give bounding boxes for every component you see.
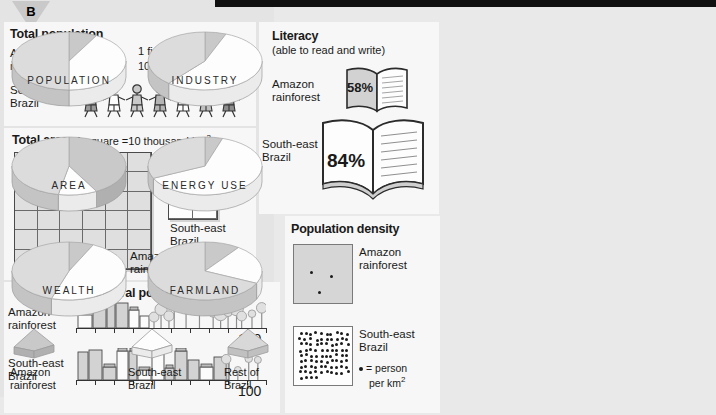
pie-label: ENERGY USE — [146, 180, 264, 191]
population-density-title: Population density — [291, 222, 399, 236]
density-dot — [347, 370, 350, 373]
density-dot — [329, 333, 332, 336]
density-dot — [309, 371, 312, 374]
density-dot — [340, 332, 343, 335]
density-dot — [321, 355, 324, 358]
density-box-amazon — [293, 244, 353, 304]
density-dot — [340, 360, 343, 363]
area-square — [38, 211, 61, 230]
legend-wedge-icon — [10, 325, 58, 359]
density-dot — [315, 376, 318, 379]
density-dot — [335, 359, 338, 362]
density-dot — [330, 371, 333, 374]
literacy-row-1-label: South-east Brazil — [262, 138, 318, 163]
density-dot — [335, 372, 338, 375]
density-dot — [320, 332, 323, 335]
density-dot — [335, 343, 338, 346]
density-dot — [309, 348, 312, 351]
density-dot — [326, 361, 329, 364]
density-dot — [326, 370, 329, 373]
density-dot — [335, 366, 338, 369]
legend-label: Amazonrainforest — [10, 366, 95, 391]
pie-label: FARMLAND — [146, 285, 264, 296]
pie-chart-area[interactable]: AREA — [10, 135, 128, 213]
density-dot — [340, 372, 343, 375]
density-dot — [330, 366, 333, 369]
density-dot — [341, 349, 344, 352]
literacy-value-southeast: 84% — [327, 150, 365, 172]
density-dot — [345, 349, 348, 352]
density-dot — [325, 355, 328, 358]
pie-chart-wealth[interactable]: WEALTH — [10, 240, 128, 318]
pie-chart-industry[interactable]: INDUSTRY — [146, 30, 264, 108]
density-dot — [310, 355, 313, 358]
density-dot — [335, 353, 338, 356]
density-dot — [309, 333, 312, 336]
density-key: = person per km2 — [359, 362, 407, 389]
density-dot — [345, 366, 348, 369]
area-square — [83, 211, 106, 230]
density-dot — [316, 343, 319, 346]
pie-label: INDUSTRY — [146, 75, 264, 86]
density-dot — [318, 291, 321, 294]
density-dot — [336, 338, 339, 341]
literacy-title: Literacy — [272, 29, 318, 43]
density-dot — [330, 275, 333, 278]
axis-tick — [114, 328, 115, 333]
density-dot — [315, 360, 318, 363]
density-dot — [341, 354, 344, 357]
area-square — [128, 211, 151, 230]
density-dot — [341, 337, 344, 340]
top-black-bar — [215, 0, 716, 7]
density-dot — [309, 337, 312, 340]
pie-label: AREA — [10, 180, 128, 191]
density-dot — [331, 344, 334, 347]
density-dot — [310, 271, 313, 274]
density-dot — [316, 339, 319, 342]
panel-literacy: Literacy (able to read and write) Amazon… — [259, 22, 439, 214]
density-dot — [336, 331, 339, 334]
density-dot — [345, 338, 348, 341]
literacy-value-amazon: 58% — [347, 80, 373, 95]
legend-wedge-icon — [128, 325, 176, 359]
pie-label: WEALTH — [10, 285, 128, 296]
density-dot — [329, 355, 332, 358]
pie-chart-population[interactable]: POPULATION — [10, 30, 128, 108]
area-square — [106, 211, 129, 230]
pie-label: POPULATION — [10, 75, 128, 86]
density-key-dot-icon — [359, 367, 363, 371]
legend-item-2: Rest ofBrazil — [224, 325, 309, 391]
density-dot — [335, 349, 338, 352]
legend-label: South-eastBrazil — [128, 366, 213, 391]
axis-tick — [114, 380, 115, 385]
density-dot — [347, 343, 350, 346]
legend-wedge-icon — [224, 325, 272, 359]
legend-item-1: South-eastBrazil — [128, 325, 213, 391]
density-dot — [320, 360, 323, 363]
area-square — [60, 211, 83, 230]
density-dot — [309, 343, 312, 346]
literacy-row-0-label: Amazon rainforest — [272, 78, 320, 103]
density-dot — [321, 349, 324, 352]
density-dot — [314, 331, 317, 334]
density-dot — [310, 359, 313, 362]
axis-tick — [95, 328, 96, 333]
density-dot — [314, 370, 317, 373]
legend-item-0: Amazonrainforest — [10, 325, 95, 391]
density-dot — [320, 365, 323, 368]
density-dot — [330, 338, 333, 341]
density-dot — [331, 349, 334, 352]
density-dot — [324, 365, 327, 368]
density-dot — [326, 338, 329, 341]
density-dot — [346, 333, 349, 336]
legend-label: Rest ofBrazil — [224, 366, 309, 391]
density-southeast-label: South-east Brazil — [359, 328, 415, 353]
density-dot — [325, 342, 328, 345]
density-dot — [331, 359, 334, 362]
density-dot — [345, 354, 348, 357]
density-dot — [314, 349, 317, 352]
pie-chart-farmland[interactable]: FARMLAND — [146, 240, 264, 318]
density-dot — [340, 342, 343, 345]
pie-chart-energy-use[interactable]: ENERGY USE — [146, 135, 264, 213]
density-key-superscript: 2 — [401, 375, 405, 384]
